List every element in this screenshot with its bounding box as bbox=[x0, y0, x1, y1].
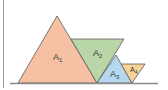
diagram-canvas: A1 A2 A3 A4 bbox=[0, 0, 168, 90]
triangle-area-diagram: A1 A2 A3 A4 bbox=[0, 0, 168, 90]
